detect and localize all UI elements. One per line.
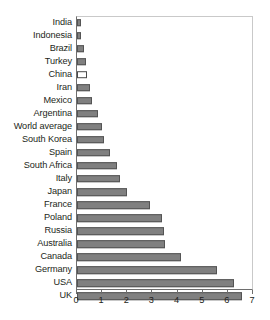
bar-track: [77, 123, 102, 131]
bar-row: South Africa: [0, 159, 270, 172]
bar: [77, 201, 150, 209]
bar-row: South Korea: [0, 133, 270, 146]
x-tick-label: 1: [99, 296, 104, 305]
bar-row: Poland: [0, 211, 270, 224]
bar: [77, 253, 181, 261]
bar: [77, 123, 102, 131]
bar-track: [77, 279, 234, 287]
bar-track: [77, 201, 150, 209]
bar-track: [77, 266, 217, 274]
category-label: Argentina: [34, 109, 72, 118]
bar-row: China: [0, 68, 270, 81]
category-label: Turkey: [45, 57, 72, 66]
bar-track: [77, 214, 162, 222]
x-tick-label: 6: [224, 296, 229, 305]
category-label: Germany: [35, 266, 72, 275]
bar-row: Spain: [0, 146, 270, 159]
bar: [77, 45, 84, 53]
bar-row: Iran: [0, 81, 270, 94]
bar: [77, 84, 90, 92]
bar-track: [77, 45, 84, 53]
x-tick-mark: [202, 290, 203, 294]
x-tick-mark: [101, 290, 102, 294]
bar-track: [77, 175, 120, 183]
bar-track: [77, 136, 104, 144]
category-label: Spain: [49, 148, 72, 157]
bar-row: Germany: [0, 264, 270, 277]
bar-row: France: [0, 198, 270, 211]
category-label: Italy: [56, 174, 72, 183]
bar: [77, 188, 127, 196]
category-label: Australia: [37, 239, 72, 248]
category-label: Iran: [57, 83, 72, 92]
bar-track: [77, 240, 165, 248]
bar-row: Indonesia: [0, 29, 270, 42]
bar-track: [77, 84, 90, 92]
category-label: China: [48, 70, 72, 79]
category-label: Brazil: [50, 44, 72, 53]
bar-track: [77, 19, 81, 27]
bar: [77, 71, 87, 79]
bar: [77, 19, 81, 27]
bar: [77, 175, 120, 183]
bar-rows-container: IndiaIndonesiaBrazilTurkeyChinaIranMexic…: [0, 16, 270, 290]
x-axis: 01234567: [76, 290, 253, 320]
bar-row: Australia: [0, 238, 270, 251]
bar-chart: IndiaIndonesiaBrazilTurkeyChinaIranMexic…: [0, 0, 270, 320]
bar: [77, 149, 110, 157]
category-label: India: [53, 18, 72, 27]
category-label: World average: [14, 122, 72, 131]
bar-track: [77, 162, 117, 170]
category-label: France: [44, 200, 72, 209]
category-label: UK: [59, 292, 72, 301]
bar: [77, 227, 164, 235]
bar: [77, 279, 234, 287]
category-label: Japan: [47, 187, 72, 196]
bar-row: Brazil: [0, 42, 270, 55]
category-label: Russia: [45, 226, 72, 235]
bar-track: [77, 188, 127, 196]
x-tick-label: 0: [73, 296, 78, 305]
bar: [77, 136, 104, 144]
bar-track: [77, 32, 81, 40]
bar-track: [77, 253, 181, 261]
bar-track: [77, 71, 87, 79]
bar-row: India: [0, 16, 270, 29]
bar-row: USA: [0, 277, 270, 290]
x-tick-mark: [177, 290, 178, 294]
x-tick-label: 2: [124, 296, 129, 305]
bar-row: Argentina: [0, 107, 270, 120]
x-tick-mark: [252, 290, 253, 294]
x-tick-label: 7: [249, 296, 254, 305]
x-tick-mark: [227, 290, 228, 294]
x-tick-label: 4: [174, 296, 179, 305]
category-label: Poland: [44, 213, 72, 222]
bar-track: [77, 97, 92, 105]
category-label: Indonesia: [33, 31, 72, 40]
bar-track: [77, 110, 98, 118]
bar: [77, 110, 98, 118]
bar-track: [77, 227, 164, 235]
bar: [77, 162, 117, 170]
x-tick-label: 5: [199, 296, 204, 305]
bar: [77, 58, 86, 66]
x-tick-mark: [76, 290, 77, 294]
bar: [77, 97, 92, 105]
bar: [77, 214, 162, 222]
bar-row: Turkey: [0, 55, 270, 68]
bar-row: Canada: [0, 251, 270, 264]
x-tick-label: 3: [149, 296, 154, 305]
category-label: USA: [53, 279, 72, 288]
bar-row: Italy: [0, 172, 270, 185]
x-tick-mark: [126, 290, 127, 294]
bar: [77, 240, 165, 248]
category-label: South Africa: [24, 161, 72, 170]
bar-track: [77, 58, 86, 66]
bar-row: Mexico: [0, 94, 270, 107]
bar: [77, 32, 81, 40]
category-label: Mexico: [43, 96, 72, 105]
bar-row: Russia: [0, 225, 270, 238]
category-label: South Korea: [22, 135, 72, 144]
bar-track: [77, 149, 110, 157]
bar-row: Japan: [0, 185, 270, 198]
